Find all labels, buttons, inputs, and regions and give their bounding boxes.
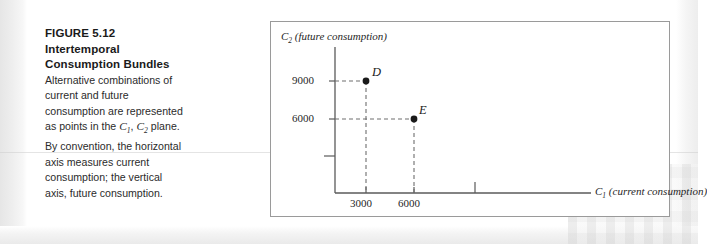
caption-text-post: plane.	[148, 120, 180, 132]
caption-var-c2: C2	[137, 120, 148, 132]
figure-caption-line-3: consumption are represented	[45, 104, 195, 120]
chart-svg	[271, 22, 671, 218]
figure-caption-line-7: consumption; the vertical	[45, 170, 195, 186]
figure-caption-line-2: current and future	[45, 88, 195, 104]
figure-heading-line-2: Intertemporal	[45, 42, 195, 58]
figure-caption-line-5: By convention, the horizontal	[45, 139, 195, 155]
caption-var-c1-symbol: C	[119, 120, 127, 132]
figure-heading-line-1: FIGURE 5.12	[45, 26, 195, 42]
figure-caption-line-8: axis, future consumption.	[45, 186, 195, 202]
figure-caption-line-1: Alternative combinations of	[45, 73, 195, 89]
figure-caption-line-4: as points in the C1, C2 plane.	[45, 119, 195, 139]
scan-edge-left	[0, 0, 27, 244]
caption-text-pre: as points in the	[45, 120, 119, 132]
caption-var-c1: C1	[119, 120, 130, 132]
caption-var-c2-symbol: C	[137, 120, 145, 132]
chart-plot-area: C2 (future consumption) C1 (current cons…	[271, 22, 669, 216]
figure-heading-line-3: Consumption Bundles	[45, 57, 195, 73]
data-point-marker-D	[363, 78, 370, 85]
figure-caption-line-6: axis measures current	[45, 155, 195, 171]
chart-frame: C2 (future consumption) C1 (current cons…	[270, 21, 670, 217]
figure-caption-block: FIGURE 5.12 Intertemporal Consumption Bu…	[45, 26, 195, 202]
data-point-marker-E	[411, 116, 418, 123]
